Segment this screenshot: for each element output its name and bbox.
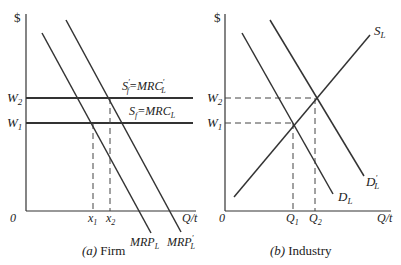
panel-industry: $ 0 Q/t W2 W1 SL DL D′L Q1 Q2 (b)Industr… (207, 10, 393, 258)
firm-caption: (a)Firm (82, 243, 125, 258)
industry-supply-label: SL (374, 23, 386, 40)
industry-caption: (b)Industry (270, 243, 332, 258)
industry-q2-label: Q2 (309, 211, 322, 227)
firm-mrp-curve (42, 33, 151, 233)
firm-y-axis-label: $ (14, 10, 21, 25)
industry-x-axis-label: Q/t (377, 211, 393, 225)
industry-demand-prime-curve (270, 20, 364, 176)
industry-w2-label: W2 (207, 90, 223, 107)
industry-origin-label: 0 (219, 211, 225, 225)
industry-q1-label: Q1 (286, 211, 299, 227)
firm-supply-new-label: S′f=MRC′L (122, 78, 166, 95)
industry-demand-prime-label: D′L (365, 174, 379, 191)
firm-supply-old-label: Sf=MRCL (129, 104, 176, 120)
firm-mrp-label: MRPL (129, 235, 160, 251)
firm-x2-label: x2 (105, 211, 115, 227)
panel-firm: $ 0 Q/t W2 W1 S′f=MRC′L Sf=MRCL x1 x2 MR… (7, 10, 198, 258)
industry-demand-curve (242, 33, 333, 194)
labor-market-diagram: $ 0 Q/t W2 W1 S′f=MRC′L Sf=MRCL x1 x2 MR… (0, 0, 401, 265)
firm-w2-label: W2 (7, 90, 23, 107)
firm-mrp-prime-label: MRP′L (166, 234, 195, 251)
industry-y-axis-label: $ (214, 10, 221, 25)
firm-origin-label: 0 (10, 211, 16, 225)
firm-w1-label: W1 (7, 115, 22, 132)
firm-x1-label: x1 (87, 211, 97, 227)
industry-w1-label: W1 (207, 115, 222, 132)
industry-demand-label: DL (337, 189, 352, 206)
firm-mrp-prime-curve (66, 20, 181, 232)
firm-x-axis-label: Q/t (182, 211, 198, 225)
industry-supply-curve (234, 35, 370, 197)
